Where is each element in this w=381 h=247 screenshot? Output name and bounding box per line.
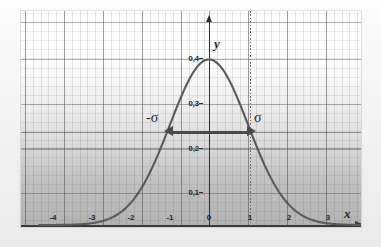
plot-area: 0,4 0,3 0,2 0,1 -4 -3 -2 -1 0 1 2 3 4 y …	[21, 11, 361, 227]
x-tick-label-1: -3	[82, 214, 102, 222]
y-axis-label: y	[214, 37, 220, 50]
sigma-arrowhead-right-icon	[247, 126, 256, 136]
x-tick-label-8: 4	[357, 214, 361, 222]
y-tick-label-3: 0,1	[177, 189, 199, 197]
sigma-interval-arrow-bar	[170, 131, 249, 134]
y-tick-label-1: 0,3	[177, 100, 199, 108]
x-tick-label-0: -4	[43, 214, 63, 222]
figure-canvas: 0,4 0,3 0,2 0,1 -4 -3 -2 -1 0 1 2 3 4 y …	[0, 0, 381, 247]
x-tick-label-4: 0	[199, 214, 219, 222]
x-axis-label: x	[344, 207, 351, 220]
x-tick-label-5: 1	[240, 214, 260, 222]
annotation-minus-sigma: -σ	[146, 111, 158, 125]
x-tick-label-7: 3	[318, 214, 338, 222]
x-tick-label-3: -1	[160, 214, 180, 222]
y-tick-label-0: 0,4	[177, 55, 199, 63]
sigma-arrowhead-left-icon	[164, 126, 173, 136]
x-tick-label-6: 2	[279, 214, 299, 222]
annotation-sigma: σ	[254, 111, 262, 125]
x-tick-label-2: -2	[121, 214, 141, 222]
y-tick-label-2: 0,2	[177, 145, 199, 153]
